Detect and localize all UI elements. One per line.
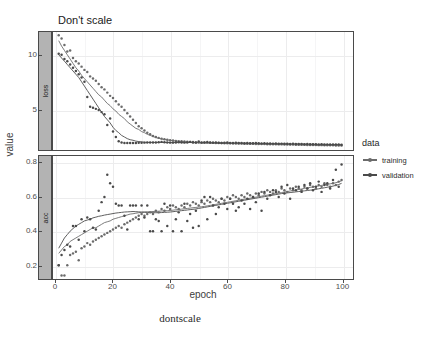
data-point xyxy=(312,143,314,145)
data-point xyxy=(117,140,119,142)
data-point xyxy=(200,199,202,201)
data-point xyxy=(215,199,217,201)
data-point xyxy=(97,109,99,111)
data-point xyxy=(257,142,259,144)
data-point xyxy=(146,204,148,206)
data-point xyxy=(163,138,165,140)
data-point xyxy=(92,107,94,109)
page-title: Don't scale xyxy=(58,14,112,26)
data-point xyxy=(80,76,82,78)
data-point xyxy=(226,141,228,143)
data-point xyxy=(177,211,179,213)
data-point xyxy=(86,96,88,98)
legend-item-training[interactable]: training xyxy=(362,153,414,167)
data-point xyxy=(149,133,151,135)
data-point xyxy=(103,88,105,90)
data-point xyxy=(223,142,225,144)
data-point xyxy=(197,204,199,206)
data-point xyxy=(229,142,231,144)
data-point xyxy=(217,142,219,144)
data-point xyxy=(137,218,139,220)
data-point xyxy=(69,254,71,256)
data-point xyxy=(252,196,254,198)
data-point xyxy=(235,196,237,198)
data-point xyxy=(326,182,328,184)
data-point xyxy=(117,103,119,105)
data-point xyxy=(143,216,145,218)
facet-strip-acc-label: acc xyxy=(42,212,49,223)
data-point xyxy=(220,142,222,144)
data-point xyxy=(232,203,234,205)
data-point xyxy=(335,184,337,186)
data-point xyxy=(317,184,319,186)
data-point xyxy=(77,73,79,75)
data-point xyxy=(272,189,274,191)
data-point xyxy=(80,218,82,220)
data-point xyxy=(269,194,271,196)
data-point xyxy=(155,136,157,138)
data-point xyxy=(246,197,248,199)
x-axis-tick-label: 80 xyxy=(273,282,297,291)
data-point xyxy=(140,127,142,129)
data-point xyxy=(146,213,148,215)
data-point xyxy=(277,191,279,193)
data-point xyxy=(112,130,114,132)
data-point xyxy=(329,143,331,145)
data-point xyxy=(223,203,225,205)
data-point xyxy=(152,135,154,137)
data-point xyxy=(237,206,239,208)
data-point xyxy=(246,142,248,144)
data-point xyxy=(135,204,137,206)
data-point xyxy=(137,215,139,217)
data-point xyxy=(340,143,342,145)
legend-item-validation[interactable]: validation xyxy=(362,168,414,182)
data-point xyxy=(243,203,245,205)
data-point xyxy=(240,194,242,196)
data-point xyxy=(86,71,88,73)
data-point xyxy=(269,191,271,193)
data-point xyxy=(172,141,174,143)
data-point xyxy=(120,204,122,206)
data-point xyxy=(266,197,268,199)
data-point xyxy=(289,143,291,145)
data-point xyxy=(255,201,257,203)
data-point xyxy=(100,86,102,88)
data-point xyxy=(86,242,88,244)
data-point xyxy=(137,125,139,127)
data-point xyxy=(212,141,214,143)
data-point xyxy=(280,186,282,188)
data-point xyxy=(189,141,191,143)
data-point xyxy=(172,230,174,232)
data-point xyxy=(257,192,259,194)
data-point xyxy=(286,191,288,193)
data-point xyxy=(75,250,77,252)
data-point xyxy=(320,143,322,145)
data-point xyxy=(123,109,125,111)
data-point xyxy=(83,69,85,71)
data-point xyxy=(155,209,157,211)
data-point xyxy=(212,197,214,199)
data-point xyxy=(286,142,288,144)
data-point xyxy=(95,108,97,110)
data-point xyxy=(160,208,162,210)
data-point xyxy=(66,264,68,266)
data-point xyxy=(135,142,137,144)
data-point xyxy=(286,184,288,186)
data-point xyxy=(192,141,194,143)
data-point xyxy=(137,142,139,144)
data-point xyxy=(226,208,228,210)
data-point xyxy=(315,186,317,188)
data-point xyxy=(152,141,154,143)
data-point xyxy=(100,201,102,203)
data-point xyxy=(292,143,294,145)
data-point xyxy=(266,189,268,191)
x-axis-tick-label: 60 xyxy=(215,282,239,291)
data-point xyxy=(160,141,162,143)
data-point xyxy=(103,113,105,115)
data-point xyxy=(337,143,339,145)
data-point xyxy=(197,140,199,142)
data-point xyxy=(240,199,242,201)
data-point xyxy=(149,211,151,213)
data-point xyxy=(146,131,148,133)
data-point xyxy=(95,79,97,81)
